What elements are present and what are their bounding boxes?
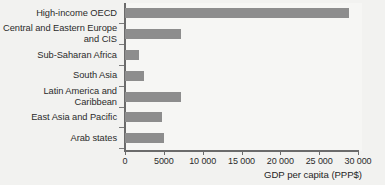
x-tick-label: 10 000 xyxy=(189,156,216,166)
category-label: Sub-Saharan Africa xyxy=(37,50,117,61)
category-label: High-income OECD xyxy=(36,8,117,19)
x-tick-label: 20 000 xyxy=(267,156,294,166)
x-tick-mark xyxy=(280,151,281,155)
x-tick-label: 15 000 xyxy=(228,156,255,166)
category-label: Arab states xyxy=(71,133,117,144)
plot-area xyxy=(125,3,362,151)
category-label: Latin America and Caribbean xyxy=(43,86,117,107)
x-tick-label: 25 000 xyxy=(306,156,333,166)
y-tick-mark xyxy=(119,127,124,128)
bar xyxy=(125,29,181,39)
bar-chart-figure: High-income OECDCentral and Eastern Euro… xyxy=(0,0,385,185)
bar xyxy=(125,112,162,122)
y-tick-mark xyxy=(119,23,124,24)
bar xyxy=(125,50,139,60)
bar xyxy=(125,92,181,102)
x-tick-label: 0 xyxy=(123,156,128,166)
y-tick-mark xyxy=(119,107,124,108)
bar xyxy=(125,71,144,81)
bar xyxy=(125,8,349,18)
x-tick-mark xyxy=(319,151,320,155)
x-tick-label: 30 000 xyxy=(345,156,372,166)
x-tick-mark xyxy=(164,151,165,155)
x-tick-label: 5000 xyxy=(154,156,174,166)
x-tick-mark xyxy=(242,151,243,155)
category-label: East Asia and Pacific xyxy=(31,112,117,123)
category-label: Central and Eastern Europe and CIS xyxy=(3,23,117,44)
x-axis-title: GDP per capita (PPP$) xyxy=(0,169,362,180)
y-tick-mark xyxy=(119,65,124,66)
x-tick-mark xyxy=(358,151,359,155)
y-tick-mark xyxy=(119,148,124,149)
x-tick-mark xyxy=(125,151,126,155)
category-label: South Asia xyxy=(73,70,117,81)
bar xyxy=(125,133,164,143)
y-tick-mark xyxy=(119,86,124,87)
x-tick-mark xyxy=(203,151,204,155)
y-tick-mark xyxy=(119,44,124,45)
